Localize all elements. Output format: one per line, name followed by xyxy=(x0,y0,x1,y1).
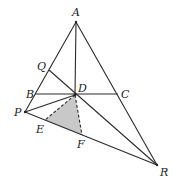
label-r: R xyxy=(159,166,168,179)
point-a xyxy=(75,21,77,23)
label-f: F xyxy=(76,138,85,151)
label-e: E xyxy=(35,123,44,136)
label-p: P xyxy=(13,106,22,119)
label-c: C xyxy=(121,88,130,101)
label-q: Q xyxy=(37,60,46,73)
label-b: B xyxy=(25,88,34,101)
point-p xyxy=(24,111,26,113)
point-d xyxy=(74,94,77,97)
geometry-diagram: A Q B D C P E F R xyxy=(0,0,173,189)
point-r xyxy=(156,164,158,166)
label-d: D xyxy=(77,82,87,95)
segment-ad xyxy=(75,22,76,95)
label-a: A xyxy=(71,6,80,19)
segment-pr xyxy=(25,112,157,165)
